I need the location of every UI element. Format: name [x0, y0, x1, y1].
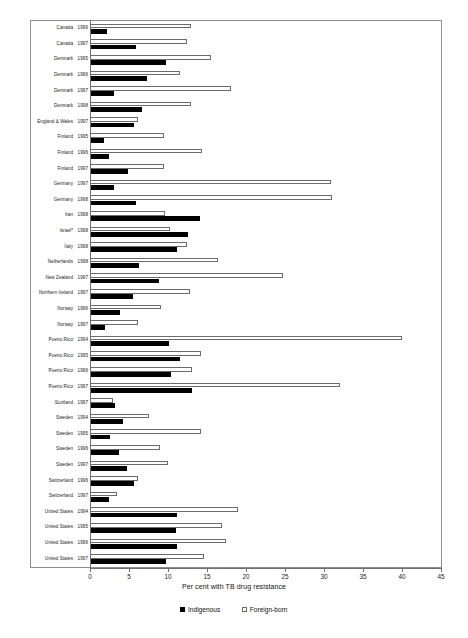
bar-foreign-born [90, 149, 202, 154]
bar-foreign-born [90, 367, 192, 372]
x-axis-tick [168, 568, 169, 572]
row-label-year: 1998 [75, 229, 88, 234]
row-label-year: 1996 [75, 447, 88, 452]
bar-indigenous [90, 279, 159, 284]
row-bars [90, 458, 441, 474]
chart-row: Denmark1998 [31, 99, 441, 115]
bar-foreign-born [90, 429, 201, 434]
bar-indigenous [90, 528, 176, 533]
chart-row: Norway1997 [31, 317, 441, 333]
row-bars [90, 489, 441, 505]
row-bars [90, 255, 441, 271]
bar-foreign-born [90, 164, 164, 169]
bar-foreign-born [90, 461, 168, 466]
bar-indigenous [90, 403, 115, 408]
row-label-country: Italy [64, 244, 73, 249]
row-label-country: Germany [54, 197, 73, 202]
bar-foreign-born [90, 102, 191, 107]
row-label: Denmark1996 [31, 73, 88, 78]
row-label-year: 1997 [75, 291, 88, 296]
bar-indigenous [90, 294, 133, 299]
bar-foreign-born [90, 211, 165, 216]
row-label-country: Denmark [54, 88, 73, 93]
row-label-country: Iran [65, 212, 73, 217]
row-bars [90, 68, 441, 84]
bar-foreign-born [90, 383, 340, 388]
bar-foreign-born [90, 336, 402, 341]
bar-foreign-born [90, 273, 283, 278]
bar-indigenous [90, 123, 134, 128]
row-label: Puerto Rico1994 [31, 338, 88, 343]
bar-indigenous [90, 107, 142, 112]
x-axis-tick-label: 40 [398, 574, 405, 580]
row-label-country: Germany [54, 181, 73, 186]
row-label-year: 1995 [75, 525, 88, 530]
row-label: Sweden1995 [31, 432, 88, 437]
row-bars [90, 177, 441, 193]
chart-row: Sweden1995 [31, 427, 441, 443]
row-label-year: 1997 [75, 323, 88, 328]
row-bars [90, 193, 441, 209]
row-label: Sweden1994 [31, 416, 88, 421]
row-label-country: Puerto Rico [48, 353, 73, 358]
chart-row: Iran1998 [31, 208, 441, 224]
row-label-year: 1998 [75, 260, 88, 265]
bar-indigenous [90, 388, 192, 393]
row-label: Germany1997 [31, 182, 88, 187]
row-label-year: 1994 [75, 510, 88, 515]
bar-indigenous [90, 435, 110, 440]
row-label-country: Denmark [54, 56, 73, 61]
x-axis-tick-label: 15 [203, 574, 210, 580]
bar-indigenous [90, 559, 166, 564]
row-label-country: Switzerland [49, 493, 73, 498]
row-label-year: 1997 [75, 557, 88, 562]
row-bars [90, 520, 441, 536]
row-label-year: 1997 [75, 42, 88, 47]
row-label: England & Wales1997 [31, 120, 88, 125]
row-bars [90, 146, 441, 162]
row-label-year: 1996 [75, 369, 88, 374]
row-label: Switzerland1997 [31, 494, 88, 499]
chart-row: England & Wales1997 [31, 115, 441, 131]
row-label-country: Puerto Rico [48, 337, 73, 342]
x-axis-tick-label: 0 [88, 574, 92, 580]
row-label-country: Netherlands [48, 259, 73, 264]
row-label: Denmark1995 [31, 57, 88, 62]
row-label-year: 1997 [75, 401, 88, 406]
bar-indigenous [90, 513, 177, 518]
bar-indigenous [90, 60, 166, 65]
x-axis-tick [129, 568, 130, 572]
tb-drug-resistance-bar-chart: Canada1996Canada1997Denmark1995Denmark19… [0, 0, 468, 638]
bar-indigenous [90, 29, 107, 34]
row-label-country: Sweden [56, 446, 73, 451]
bar-foreign-born [90, 227, 170, 232]
chart-row: Italy1998 [31, 239, 441, 255]
row-label: Scotland1997 [31, 401, 88, 406]
legend-item-foreign-born: Foreign-born [242, 606, 287, 613]
chart-row: Sweden1996 [31, 442, 441, 458]
row-label-country: Norway [57, 306, 73, 311]
bar-indigenous [90, 216, 200, 221]
chart-row: Netherlands1998 [31, 255, 441, 271]
row-label: Sweden1996 [31, 447, 88, 452]
row-bars [90, 536, 441, 552]
row-bars [90, 364, 441, 380]
bar-foreign-born [90, 523, 222, 528]
row-bars [90, 99, 441, 115]
bar-foreign-born [90, 86, 231, 91]
row-bars [90, 130, 441, 146]
chart-row: United States1994 [31, 505, 441, 521]
row-bars [90, 427, 441, 443]
bar-indigenous [90, 247, 177, 252]
chart-row: Denmark1995 [31, 52, 441, 68]
row-label-country: Denmark [54, 72, 73, 77]
row-label-country: United States [45, 524, 73, 529]
x-axis-tick [285, 568, 286, 572]
row-label-country: Sweden [56, 431, 73, 436]
row-bars [90, 239, 441, 255]
bar-foreign-born [90, 180, 331, 185]
bar-indigenous [90, 310, 120, 315]
row-label-country: Denmark [54, 103, 73, 108]
row-bars [90, 224, 441, 240]
row-label: Israel*1998 [31, 229, 88, 234]
